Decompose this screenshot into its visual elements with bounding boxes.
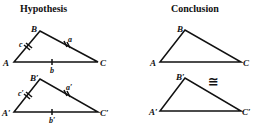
side-b-label: b (50, 66, 54, 75)
vertex-b-label: B (30, 24, 37, 34)
vertex-c-prime-label: C′ (100, 108, 109, 118)
triangle-diagram: A B C c a b A′ B′ C′ c′ a′ b′ A B C A′ B… (0, 0, 257, 135)
conclusion-vertex-a-prime-label: A′ (148, 107, 158, 117)
conclusion-vertex-c-prime-label: C′ (242, 107, 251, 117)
conclusion-vertex-a-label: A (149, 58, 156, 68)
triangle-abc-conclusion (160, 30, 241, 62)
congruent-symbol: ≅ (208, 74, 219, 89)
conclusion-vertex-b-prime-label: B′ (175, 72, 185, 82)
side-b-prime-label: b′ (49, 116, 55, 125)
conclusion-vertex-c-label: C (243, 58, 250, 68)
vertex-b-prime-label: B′ (29, 73, 39, 83)
conclusion-vertex-b-label: B (176, 24, 183, 34)
vertex-a-label: A (2, 58, 9, 68)
side-c-label: c (19, 40, 23, 49)
vertex-a-prime-label: A′ (1, 108, 11, 118)
side-c-prime-label: c′ (18, 89, 24, 98)
triangle-abc-prime-conclusion (160, 78, 241, 111)
vertex-c-label: C (100, 58, 107, 68)
side-a-prime-label: a′ (66, 83, 72, 92)
side-a-label: a (68, 35, 72, 44)
